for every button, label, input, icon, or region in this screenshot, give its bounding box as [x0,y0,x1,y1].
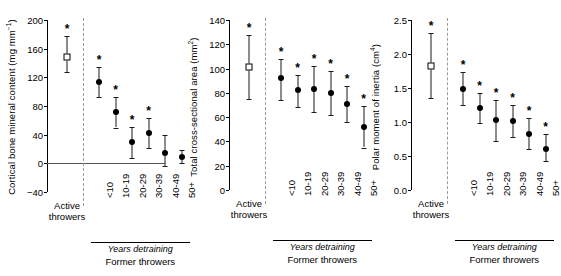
significance-asterisk: * [510,94,515,102]
y-axis-line [411,20,412,190]
y-tick-label: 40 [195,136,225,147]
error-bar-cap-upper [295,75,300,76]
y-axis-title: Polar moment of inertia (cm4) [364,0,386,215]
chart-panel-panel-total-csa: Total cross-sectional area (mm2)14012010… [182,0,364,276]
error-bar-cap-upper [345,86,350,87]
error-bar-cap-lower [65,72,70,73]
y-tick-label: 80 [195,87,225,98]
significance-asterisk: * [494,89,499,97]
error-bar-cap-lower [163,166,168,167]
group-caption-years-detraining: Years detraining [108,244,173,254]
error-bar-cap-upper [65,36,70,37]
x-label-20-29: 20-29 [319,172,330,196]
error-bar-cap-upper [312,66,317,67]
data-marker-open-square [246,64,253,71]
data-point-former-30-39: * [506,0,520,190]
data-point-former-30-39: * [324,0,338,190]
error-bar-cap-lower [328,115,333,116]
x-label-active-line1: Active [219,198,279,209]
former-throwers-rule [91,242,190,243]
error-bar-cap-upper [429,33,434,34]
x-label-active-line2: throwers [219,209,279,220]
y-tick [408,54,411,55]
data-marker-filled-circle [311,86,317,92]
x-label-10-19: 10-19 [120,174,131,198]
significance-asterisk: * [312,55,317,63]
y-tick-label: 2.5 [377,15,407,26]
y-tick-label: 200 [13,15,43,26]
x-label-active-line2: throwers [401,209,461,220]
error-bar-cap-upper [247,35,252,36]
y-tick [408,190,411,191]
x-label-<10: <10 [286,180,297,196]
error-bar-cap-lower [130,158,135,159]
data-marker-filled-circle [96,79,102,85]
x-label-10-19: 10-19 [484,172,495,196]
error-bar-cap-upper [130,127,135,128]
significance-asterisk: * [130,116,135,124]
y-axis-line [229,20,230,190]
chart-panel-panel-cortical-bmc: Cortical bone mineral content (mg mm−1)2… [0,0,182,276]
error-bar-cap-upper [328,71,333,72]
significance-asterisk: * [429,22,434,30]
data-point-active-throwers: * [60,0,74,192]
y-tick [44,20,47,21]
error-bar-cap-lower [312,112,317,113]
former-throwers-rule [455,240,554,241]
former-throwers-rule [273,240,372,241]
data-point-active-throwers: * [242,0,256,190]
data-marker-filled-circle [460,86,466,92]
data-point-former-20-29: * [489,0,503,190]
y-tick-label: 100 [195,63,225,74]
y-tick-label: 0.0 [377,185,407,196]
y-tick [44,77,47,78]
x-label-active-line2: throwers [37,211,97,222]
data-marker-filled-circle [344,101,350,107]
y-tick [226,141,229,142]
x-label-10-19: 10-19 [302,172,313,196]
significance-asterisk: * [247,24,252,32]
data-point-former-40-49 [158,0,172,192]
x-label-30-39: 30-39 [517,172,528,196]
significance-asterisk: * [543,123,548,131]
group-caption-years-detraining: Years detraining [472,242,537,252]
data-marker-filled-circle [543,146,549,152]
data-point-former-10-19: * [109,0,123,192]
y-tick-label: 20 [195,160,225,171]
significance-asterisk: * [461,61,466,69]
group-divider [265,18,266,204]
error-bar-cap-lower [461,105,466,106]
x-label-20-29: 20-29 [137,174,148,198]
significance-asterisk: * [279,48,284,56]
significance-asterisk: * [477,82,482,90]
y-tick [226,44,229,45]
error-bar-cap-upper [543,134,548,135]
data-point-active-throwers: * [424,0,438,190]
data-marker-filled-circle [278,75,284,81]
error-bar-cap-lower [510,137,515,138]
data-point-former-50+: * [539,0,553,190]
error-bar-cap-upper [146,118,151,119]
data-point-former-30-39: * [142,0,156,192]
error-bar-cap-upper [510,105,515,106]
data-point-former-10-19: * [473,0,487,190]
y-tick-label: 1.0 [377,117,407,128]
data-point-former-<10: * [456,0,470,190]
y-tick [408,88,411,89]
data-marker-filled-circle [493,117,499,123]
y-tick-label: 160 [13,43,43,54]
significance-asterisk: * [295,64,300,72]
y-tick-label: 0 [13,158,43,169]
error-bar-cap-lower [295,107,300,108]
error-bar-cap-upper [163,135,168,136]
x-label-40-49: 40-49 [534,172,545,196]
data-marker-open-square [64,53,71,60]
x-label-active-line1: Active [37,200,97,211]
y-tick [408,156,411,157]
error-bar-cap-upper [461,72,466,73]
group-caption-former-throwers: Former throwers [469,254,539,265]
data-marker-filled-circle [129,139,135,145]
y-tick-label: 60 [195,112,225,123]
data-marker-filled-circle [295,87,301,93]
y-axis-title-text: Total cross-sectional area (mm2) [187,38,199,177]
